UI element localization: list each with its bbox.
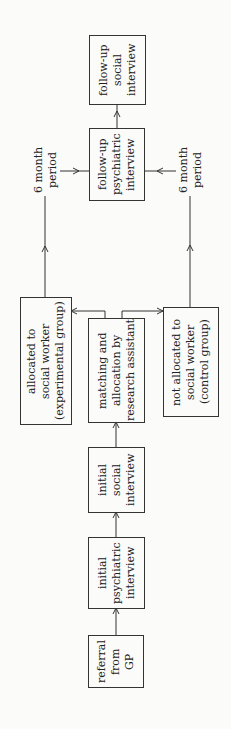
referral-box: referral from GP	[88, 635, 144, 688]
control-group-box: not allocated to social worker (control …	[163, 307, 219, 417]
followup-psychiatric-text: follow-up psychiatric interview	[90, 129, 144, 200]
initial-psychiatric-text: initial psychiatric interview	[89, 538, 144, 608]
control-group-text: not allocated to social worker (control …	[164, 308, 218, 416]
referral-text: referral from GP	[89, 636, 143, 687]
period-label-bottom: 6 month period	[178, 146, 204, 194]
initial-psychiatric-box: initial psychiatric interview	[88, 537, 145, 609]
followup-social-box: follow-up social interview	[89, 35, 146, 105]
experimental-group-box: allocated to social worker (experimental…	[20, 297, 72, 425]
followup-social-text: follow-up social interview	[90, 36, 145, 104]
experimental-group-text: allocated to social worker (experimental…	[21, 298, 71, 424]
period-label-top: 6 month period	[33, 146, 59, 194]
initial-social-box: initial social interview	[88, 447, 145, 513]
followup-psychiatric-box: follow-up psychiatric interview	[89, 128, 145, 201]
initial-social-text: initial social interview	[89, 448, 144, 512]
matching-text: matching and allocation by research assi…	[89, 319, 144, 422]
matching-box: matching and allocation by research assi…	[88, 318, 145, 423]
